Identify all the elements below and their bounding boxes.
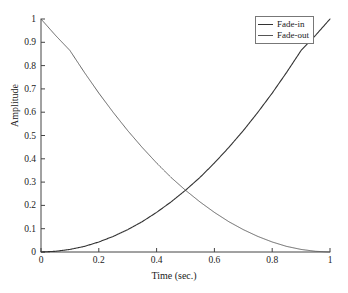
y-axis-title: Amplitude [9, 66, 20, 146]
legend-swatch-fade-out-icon [258, 35, 273, 36]
legend-swatch-fade-in-icon [258, 24, 273, 25]
y-tick-label: 0.2 [6, 200, 36, 210]
legend-item-fade-in: Fade-in [258, 19, 309, 30]
y-tick-label: 0.9 [6, 37, 36, 47]
chart-legend: Fade-in Fade-out [255, 16, 314, 44]
legend-item-fade-out: Fade-out [258, 30, 309, 41]
chart-figure: 0 0.1 0.2 0.3 0.4 0.5 0.6 0.7 0.8 0.9 1 … [0, 0, 348, 293]
series-line-fade-in [41, 19, 330, 252]
x-tick-label: 1 [328, 255, 333, 265]
y-tick-marks [41, 19, 45, 252]
series-line-fade-out [41, 19, 330, 252]
data-curves [41, 19, 330, 252]
y-tick-label: 0.4 [6, 154, 36, 164]
legend-label: Fade-in [277, 19, 305, 30]
x-axis-title: Time (sec.) [0, 270, 348, 281]
x-tick-label: 0.4 [151, 255, 163, 265]
y-tick-label: 0 [6, 247, 36, 257]
x-tick-label: 0.2 [93, 255, 105, 265]
x-tick-label: 0.8 [266, 255, 278, 265]
x-tick-marks [41, 248, 330, 252]
y-tick-label: 0.1 [6, 224, 36, 234]
y-tick-label: 0.3 [6, 177, 36, 187]
x-tick-label: 0.6 [208, 255, 220, 265]
y-tick-label: 1 [6, 14, 36, 24]
x-tick-label: 0 [39, 255, 44, 265]
legend-label: Fade-out [277, 30, 309, 41]
